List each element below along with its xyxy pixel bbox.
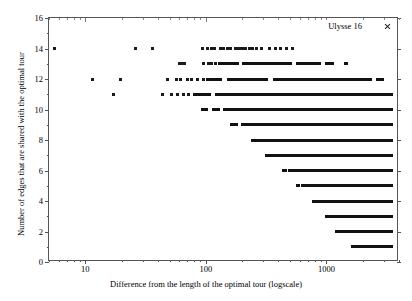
y-tick-minor [47,186,49,187]
cross-marker-icon [384,23,391,30]
x-tick-top [67,18,68,20]
y-tick-label: 2 [39,227,43,236]
data-point [268,47,271,50]
y-tick-label: 12 [35,75,44,84]
data-point [236,47,239,50]
x-tick-top [399,18,400,20]
x-tick-minor [321,260,322,262]
y-tick [45,79,49,80]
y-tick-right [397,201,401,202]
data-point [166,78,169,81]
x-tick-minor [384,260,385,262]
x-tick-top [85,18,86,22]
data-point [285,47,288,50]
data-point [213,47,216,50]
x-tick-top [74,18,75,20]
y-tick-label: 0 [39,258,43,267]
x-tick-minor [67,260,68,262]
data-point-cluster [376,78,383,81]
data-point [179,78,182,81]
data-point [175,78,178,81]
data-points-layer [49,18,397,260]
x-tick-top [308,18,309,20]
y-tick-minor [47,64,49,65]
y-tick-minor [47,247,49,248]
x-tick-minor [363,260,364,262]
data-point-cluster [230,123,238,126]
x-tick-top [263,18,264,20]
data-point [187,93,190,96]
x-tick-top [80,18,81,20]
x-tick-top [158,18,159,20]
x-tick-minor [200,260,201,262]
x-tick-minor [308,260,309,262]
y-tick-label: 10 [35,105,44,114]
data-point-cluster [242,62,292,65]
y-tick [45,201,49,202]
data-point [91,78,94,81]
data-point-cluster [223,108,393,111]
data-point [190,78,193,81]
data-point [291,47,294,50]
data-point [119,78,122,81]
data-point [183,62,186,65]
data-point-cluster [215,93,393,96]
data-point [260,47,263,50]
data-point-cluster [201,108,207,111]
y-tick-minor [47,216,49,217]
data-point [210,62,213,65]
x-tick-label: 100 [199,265,212,274]
x-tick-minor [263,260,264,262]
y-tick-minor [47,155,49,156]
data-point [53,47,56,50]
scatter-chart: 0246810121416101001000 Ulysse 16 Differe… [0,0,412,301]
data-point [222,47,225,50]
data-point [196,78,199,81]
y-tick-label: 6 [39,166,43,175]
x-tick-minor [242,260,243,262]
plot-area: 0246810121416101001000 Ulysse 16 [48,17,398,261]
y-tick [45,232,49,233]
x-tick-minor [143,260,144,262]
data-point-cluster [325,215,393,218]
x-tick-top [59,18,60,20]
x-tick-top [200,18,201,20]
x-tick-top [179,18,180,20]
x-tick-label: 10 [81,265,90,274]
y-tick [45,262,49,263]
x-tick-minor [122,260,123,262]
y-tick-right [397,110,401,111]
y-tick-right [397,171,401,172]
x-tick-top [143,18,144,20]
data-point [206,47,209,50]
data-point-cluster [282,169,287,172]
data-point-cluster [218,62,240,65]
x-tick-top [315,18,316,20]
data-point [176,93,179,96]
data-point-cluster [301,184,393,187]
y-tick [45,171,49,172]
y-tick-right [397,79,401,80]
data-point-cluster [241,123,394,126]
data-point [134,47,137,50]
data-point [112,93,115,96]
data-point [186,78,189,81]
data-point [202,62,205,65]
x-tick-top [194,18,195,20]
y-tick [45,49,49,50]
data-point [274,47,277,50]
y-tick-minor [47,33,49,34]
x-tick-minor [59,260,60,262]
y-tick-right [397,232,401,233]
y-tick-label: 16 [35,14,44,23]
x-tick-minor [278,260,279,262]
y-tick-right [397,140,401,141]
x-tick-minor [300,260,301,262]
y-tick-right [397,49,401,50]
data-point [201,47,204,50]
x-tick-minor [49,260,50,262]
x-tick-minor [290,260,291,262]
y-axis-title: Number of edges that are shared with the… [16,29,26,259]
data-point [182,93,185,96]
x-axis-title: Difference from the length of the optima… [0,279,412,289]
